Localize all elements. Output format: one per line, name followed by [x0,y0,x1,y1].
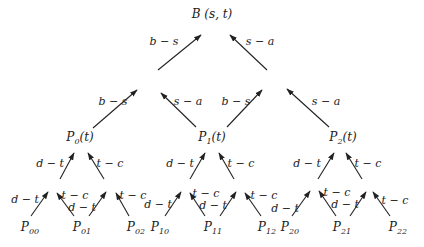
leaf-p02: P02 [126,220,145,236]
edge-label-p00: d − t [11,193,39,206]
edge-label-p21-b: d − t [331,198,359,211]
edge-label-p01-b: d − t [68,201,96,214]
leaf-p11: P11 [203,220,222,236]
edge-label-top-right: s − a [246,35,274,48]
edge-label-p1-left: s − a [174,95,202,108]
edge-label-p10: d − t [144,198,172,211]
node-p1: P1(t) [197,130,226,146]
leaf-p01: P01 [72,220,91,236]
edge-label-p0: b − s [99,95,128,108]
leaf-p20: P20 [280,220,299,236]
leaf-p21: P21 [332,220,351,236]
edge-label-p20: d − t [271,202,299,215]
root-label: B (s, t) [191,7,233,21]
edge-label-top-left: b − s [150,35,179,48]
edge-label-g0-left: d − t [36,157,64,170]
edge-label-g2-right: t − c [355,157,382,170]
edge-label-g1-right: t − c [228,157,255,170]
edge-label-p2: s − a [312,95,340,108]
bernstein-triangle-diagram: B (s, t) b − s s − a b − s s − a b − s s… [0,0,424,247]
edge-label-p1-right: b − s [222,95,251,108]
edge-label-p11-b: d − t [199,199,227,212]
edge-label-p22: t − c [382,194,409,207]
leaf-p22: P22 [388,220,407,236]
leaf-p12: P12 [257,220,276,236]
edge-label-p02: t − c [120,189,147,202]
leaf-p10: P10 [150,220,169,236]
leaf-p00: P00 [20,220,39,236]
edge-label-g2-left: d − t [293,157,321,170]
node-p2: P2(t) [328,130,357,146]
edge-label-g0-right: t − c [97,157,124,170]
node-p0: P0(t) [65,130,94,146]
edge-label-p12: t − c [251,189,278,202]
edge-label-g1-left: d − t [166,157,194,170]
